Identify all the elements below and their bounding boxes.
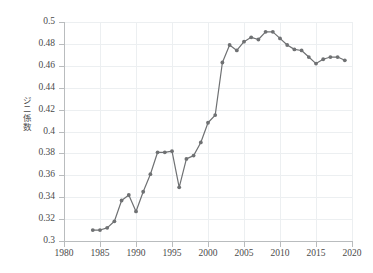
- series-line: [93, 32, 345, 230]
- data-point: [221, 61, 225, 65]
- data-point: [336, 55, 340, 59]
- gini-coefficient-line-chart: ジ ニ 係 数 0.30.320.340.360.380.40.420.440.…: [0, 0, 373, 273]
- y-tick-label: 0.46: [0, 61, 55, 71]
- data-point: [321, 57, 325, 61]
- data-point: [307, 55, 311, 59]
- data-point: [242, 40, 246, 44]
- data-point: [141, 190, 145, 194]
- data-point: [264, 30, 268, 34]
- data-point: [329, 55, 333, 59]
- y-tick-label: 0.38: [0, 148, 55, 158]
- y-tick-mark: [59, 153, 64, 154]
- x-tick-label: 1995: [163, 249, 182, 259]
- data-point: [300, 49, 304, 53]
- y-tick-label: 0.42: [0, 105, 55, 115]
- series-markers: [91, 30, 347, 232]
- y-tick-label: 0.5: [0, 17, 55, 27]
- x-tick-label: 1990: [127, 249, 146, 259]
- x-tick-label: 2005: [235, 249, 254, 259]
- x-tick-label: 2015: [307, 249, 326, 259]
- data-point: [206, 121, 210, 125]
- x-tick-mark: [244, 242, 245, 247]
- data-point: [213, 113, 217, 117]
- x-tick-mark: [208, 242, 209, 247]
- data-point: [257, 38, 261, 42]
- data-point: [185, 157, 189, 161]
- data-point: [285, 43, 289, 47]
- y-tick-mark: [59, 175, 64, 176]
- data-point: [177, 185, 181, 189]
- y-tick-mark: [59, 22, 64, 23]
- x-tick-mark: [100, 242, 101, 247]
- data-point: [278, 37, 282, 41]
- y-tick-mark: [59, 110, 64, 111]
- x-tick-label: 1980: [55, 249, 74, 259]
- x-tick-mark: [64, 242, 65, 247]
- data-point: [156, 150, 160, 154]
- data-series-layer: [0, 0, 373, 273]
- x-tick-label: 2010: [271, 249, 290, 259]
- data-point: [113, 219, 117, 223]
- y-tick-mark: [59, 88, 64, 89]
- y-tick-mark: [59, 66, 64, 67]
- data-point: [192, 154, 196, 158]
- data-point: [249, 35, 253, 39]
- y-tick-label: 0.48: [0, 39, 55, 49]
- x-tick-label: 1985: [91, 249, 110, 259]
- data-point: [235, 49, 239, 53]
- data-point: [170, 149, 174, 153]
- data-point: [149, 172, 153, 176]
- data-point: [127, 193, 131, 197]
- y-tick-label: 0.36: [0, 170, 55, 180]
- data-point: [91, 228, 95, 232]
- data-point: [314, 62, 318, 66]
- y-tick-label: 0.34: [0, 192, 55, 202]
- x-tick-mark: [316, 242, 317, 247]
- x-tick-mark: [352, 242, 353, 247]
- data-point: [228, 43, 232, 47]
- x-tick-label: 2020: [343, 249, 362, 259]
- data-point: [163, 150, 167, 154]
- x-tick-mark: [136, 242, 137, 247]
- data-point: [343, 58, 347, 62]
- data-point: [105, 226, 109, 230]
- x-tick-mark: [280, 242, 281, 247]
- data-point: [199, 141, 203, 145]
- y-tick-label: 0.4: [0, 127, 55, 137]
- y-tick-mark: [59, 132, 64, 133]
- y-tick-mark: [59, 197, 64, 198]
- x-tick-label: 2000: [199, 249, 218, 259]
- y-tick-mark: [59, 219, 64, 220]
- data-point: [271, 30, 275, 34]
- y-tick-label: 0.3: [0, 236, 55, 246]
- data-point: [98, 228, 102, 232]
- y-tick-label: 0.44: [0, 83, 55, 93]
- data-point: [134, 210, 138, 214]
- x-tick-mark: [172, 242, 173, 247]
- data-point: [293, 47, 297, 51]
- y-tick-label: 0.32: [0, 214, 55, 224]
- y-tick-mark: [59, 44, 64, 45]
- data-point: [120, 199, 124, 203]
